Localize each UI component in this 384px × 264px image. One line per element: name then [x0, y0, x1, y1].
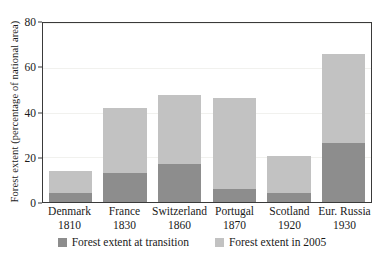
legend-label: Forest extent in 2005	[229, 236, 326, 248]
legend-label: Forest extent at transition	[72, 236, 189, 248]
x-tick-label: Switzerland1860	[152, 205, 207, 232]
chart-legend: Forest extent at transitionForest extent…	[0, 236, 384, 248]
x-tick-year: 1930	[317, 219, 372, 233]
bar-group	[43, 23, 371, 202]
x-tick-label: Scotland1920	[262, 205, 317, 232]
x-tick-country: Switzerland	[152, 205, 207, 219]
bar-segment-forest-2005[interactable]	[322, 54, 365, 142]
bar-stack[interactable]	[213, 23, 256, 202]
plot-area	[42, 22, 372, 203]
bar-segment-forest-2005[interactable]	[103, 108, 146, 173]
y-tick-label: 40	[25, 107, 37, 119]
x-tick-year: 1830	[97, 219, 152, 233]
bar-segment-forest-2005[interactable]	[267, 156, 310, 193]
x-tick-country: Denmark	[42, 205, 97, 219]
x-tick-country: Eur. Russia	[317, 205, 372, 219]
bar-segment-forest-at-transition[interactable]	[49, 193, 92, 202]
x-tick-label: Denmark1810	[42, 205, 97, 232]
bar-segment-forest-2005[interactable]	[49, 171, 92, 193]
light-gray-swatch	[215, 238, 224, 247]
bar-stack[interactable]	[49, 23, 92, 202]
y-tick-label: 80	[25, 16, 37, 28]
x-tick-label: Portugal1870	[207, 205, 262, 232]
bar-stack[interactable]	[158, 23, 201, 202]
x-tick-year: 1860	[152, 219, 207, 233]
x-axis-ticks: Denmark1810France1830Switzerland1860Port…	[42, 205, 372, 232]
y-tick-label: 20	[25, 152, 37, 164]
bar-stack[interactable]	[103, 23, 146, 202]
dark-gray-swatch	[58, 238, 67, 247]
x-tick-country: Portugal	[207, 205, 262, 219]
legend-item[interactable]: Forest extent at transition	[58, 236, 189, 248]
x-tick-country: Scotland	[262, 205, 317, 219]
bar-segment-forest-at-transition[interactable]	[213, 189, 256, 202]
bar-segment-forest-at-transition[interactable]	[267, 193, 310, 202]
bar-segment-forest-2005[interactable]	[213, 98, 256, 189]
x-tick-label: Eur. Russia1930	[317, 205, 372, 232]
bar-segment-forest-at-transition[interactable]	[103, 173, 146, 202]
bar-segment-forest-at-transition[interactable]	[322, 143, 365, 202]
bar-stack[interactable]	[322, 23, 365, 202]
x-tick-year: 1920	[262, 219, 317, 233]
bar-stack[interactable]	[267, 23, 310, 202]
forest-extent-bar-chart: Forest extent (percentage of national ar…	[0, 0, 384, 264]
y-tick-label: 60	[25, 61, 37, 73]
x-tick-country: France	[97, 205, 152, 219]
y-axis-ticks: 020406080	[0, 22, 42, 203]
x-tick-label: France1830	[97, 205, 152, 232]
x-tick-year: 1810	[42, 219, 97, 233]
y-tick-label: 0	[30, 197, 36, 209]
legend-item[interactable]: Forest extent in 2005	[215, 236, 326, 248]
bar-segment-forest-at-transition[interactable]	[158, 164, 201, 202]
bar-segment-forest-2005[interactable]	[158, 95, 201, 164]
x-tick-year: 1870	[207, 219, 262, 233]
